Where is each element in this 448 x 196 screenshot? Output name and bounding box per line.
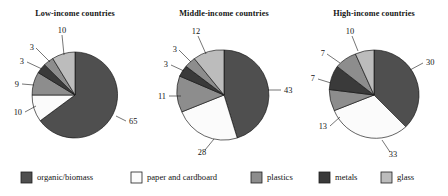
value-label-organic: 65	[129, 117, 137, 126]
square-swatch-icon	[21, 172, 32, 183]
square-swatch-icon	[131, 172, 142, 183]
value-label-plastics2: 3	[30, 43, 34, 52]
figure-canvas: Low-income countries 65 10 9 3 3 10	[0, 0, 448, 196]
pie-chart-figure: Low-income countries 65 10 9 3 3 10	[0, 0, 448, 196]
value-label-plastics: 13	[319, 122, 327, 131]
square-swatch-icon	[381, 172, 392, 183]
chart-title-middle-income: Middle-income countries	[179, 9, 268, 18]
value-label-metals: 7	[311, 74, 315, 83]
square-swatch-icon	[319, 172, 330, 183]
legend-label-plastics: plastics	[267, 172, 293, 182]
value-label-metals: 3	[20, 57, 24, 66]
square-swatch-icon	[251, 172, 262, 183]
legend-item-organic-biomass[interactable]: organic/biomass	[21, 172, 94, 183]
legend-item-plastics[interactable]: plastics	[251, 172, 293, 183]
legend-label-glass: glass	[397, 172, 415, 182]
value-label-glass: 12	[192, 27, 200, 36]
value-label-plastics2: 3	[173, 45, 177, 54]
legend-label-metals: metals	[335, 172, 358, 182]
legend-label-organic-biomass: organic/biomass	[37, 172, 94, 182]
value-label-plastics: 11	[158, 92, 166, 101]
value-label-organic: 30	[426, 58, 434, 67]
value-label-plastics: 9	[15, 80, 19, 89]
value-label-organic: 43	[284, 86, 292, 95]
pie-slices-low-income	[32, 52, 117, 138]
value-label-metals: 3	[164, 60, 168, 69]
value-label-paper: 28	[198, 148, 206, 157]
legend-item-glass[interactable]: glass	[381, 172, 415, 183]
value-label-paper: 33	[389, 150, 397, 159]
value-label-plastics2: 7	[321, 49, 325, 58]
legend-item-metals[interactable]: metals	[319, 172, 358, 183]
value-label-paper: 10	[14, 108, 22, 117]
chart-title-low-income: Low-income countries	[35, 9, 115, 18]
value-label-glass: 10	[58, 26, 66, 35]
legend-label-paper-and-cardboard: paper and cardboard	[147, 172, 218, 182]
chart-title-high-income: High-income countries	[333, 9, 414, 18]
value-label-glass: 10	[346, 27, 354, 36]
